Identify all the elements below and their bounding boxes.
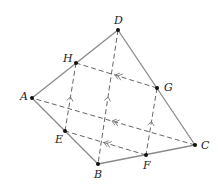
point-D (116, 28, 120, 32)
point-C (193, 143, 197, 147)
parallel-arrow-markers (67, 73, 154, 147)
label-D: D (113, 14, 123, 27)
single-arrow-icon (104, 97, 110, 101)
point-G (155, 86, 159, 90)
label-C: C (201, 139, 210, 152)
point-H (74, 61, 78, 65)
quadrilateral-diagram: ABCDEFGH (0, 0, 218, 191)
label-H: H (62, 52, 73, 65)
point-A (30, 96, 34, 100)
point-E (63, 129, 67, 133)
point-B (96, 162, 100, 166)
vertex-labels: ABCDEFGH (19, 14, 210, 181)
dashed-GH (76, 63, 157, 88)
label-A: A (19, 90, 28, 103)
label-G: G (164, 81, 173, 94)
label-F: F (142, 159, 151, 172)
point-F (144, 153, 148, 157)
label-E: E (54, 133, 63, 146)
label-B: B (93, 168, 102, 181)
